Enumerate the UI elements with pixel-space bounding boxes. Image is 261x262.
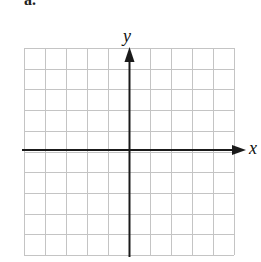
x-axis (22, 145, 246, 155)
y-axis-label: y (123, 26, 131, 47)
x-axis-arrow-icon (232, 145, 246, 155)
y-axis-arrow-icon (125, 47, 135, 62)
x-axis-label: x (249, 138, 257, 159)
